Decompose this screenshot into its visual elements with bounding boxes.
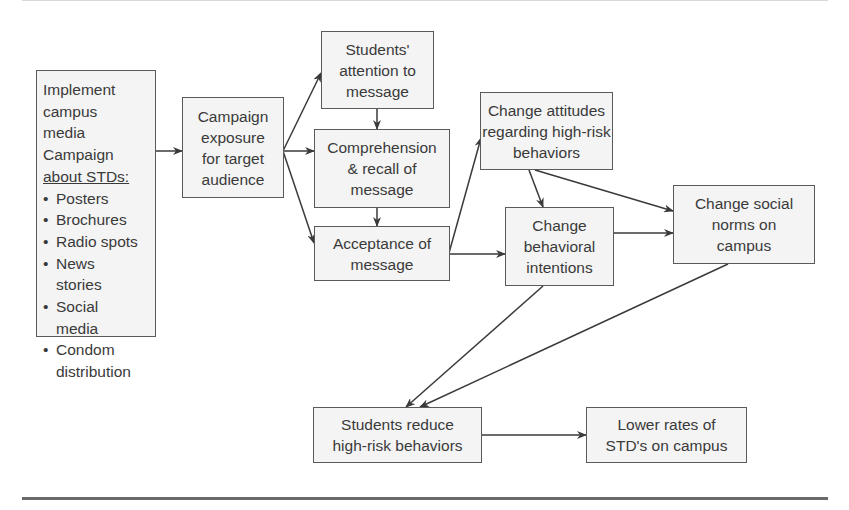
bullet-icon: •: [43, 188, 56, 210]
node-change-social-norms: Change social norms on campus: [673, 185, 815, 264]
bullet-text-line: Social: [56, 296, 98, 318]
node-text-line: & recall of: [348, 158, 417, 179]
node-text-line: high-risk behaviors: [332, 435, 462, 456]
bullet-icon: •: [43, 231, 56, 253]
bullet-icon: •: [43, 209, 56, 231]
node-text-line: Change: [532, 215, 586, 236]
arrow-exposure-to-acceptance: [283, 151, 314, 243]
bullet-text: Brochures: [56, 209, 127, 231]
bullet-text: Social media: [56, 296, 98, 339]
bullet-text: Radio spots: [56, 231, 138, 253]
node-text-line: STD's on campus: [606, 435, 728, 456]
node-text-line: for target: [202, 148, 264, 169]
node-text-line: Acceptance of: [333, 233, 431, 254]
node-campaign-exposure: Campaign exposure for target audience: [182, 97, 284, 198]
bullet-text-line: News: [56, 253, 102, 275]
node-comprehension-recall: Comprehension & recall of message: [314, 129, 450, 208]
node-text-line: Lower rates of: [617, 414, 715, 435]
node-text-line: regarding high-risk: [482, 121, 610, 142]
bullet-text: Condom distribution: [56, 339, 131, 382]
node-lower-std-rates: Lower rates of STD's on campus: [586, 407, 747, 463]
node-text-line: Campaign: [43, 144, 114, 166]
node-text-line: campus: [717, 235, 771, 256]
node-text-line: Implement: [43, 79, 115, 101]
bullet-item: • Radio spots: [43, 231, 138, 253]
node-text-line: campus: [43, 101, 97, 123]
bullet-icon: •: [43, 253, 56, 296]
node-text-line: Comprehension: [327, 137, 436, 158]
node-text-line: media: [43, 122, 85, 144]
bullet-item: • Social media: [43, 296, 98, 339]
bullet-text-line: stories: [56, 274, 102, 296]
bullet-item: • Brochures: [43, 209, 127, 231]
node-text-line: message: [351, 179, 414, 200]
bullet-text-line: distribution: [56, 361, 131, 383]
node-text-line: Students reduce: [341, 414, 454, 435]
bullet-item: • News stories: [43, 253, 102, 296]
node-change-attitudes: Change attitudes regarding high-risk beh…: [480, 92, 613, 170]
node-text-line: Campaign: [198, 106, 269, 127]
node-implement-campaign: Implement campus media Campaign about ST…: [36, 70, 156, 337]
node-text-line: behaviors: [513, 142, 580, 163]
node-text-line: attention to: [339, 60, 416, 81]
node-text-line: Students': [345, 39, 409, 60]
arrow-intentions-to-reduce: [406, 286, 543, 407]
bottom-rule: [22, 497, 828, 500]
bullet-icon: •: [43, 339, 56, 382]
node-change-behavioral-intentions: Change behavioral intentions: [505, 207, 614, 286]
bullet-text-line: media: [56, 318, 98, 340]
node-text-line: intentions: [526, 257, 592, 278]
node-students-attention: Students' attention to message: [321, 31, 434, 109]
node-text-line: audience: [202, 169, 265, 190]
bullet-text: News stories: [56, 253, 102, 296]
node-text-line: Change attitudes: [488, 100, 605, 121]
node-text-line: message: [346, 81, 409, 102]
bullet-icon: •: [43, 296, 56, 339]
bullet-text: Posters: [56, 188, 109, 210]
arrow-acceptance-to-attitudes: [449, 138, 481, 253]
node-text-line: message: [351, 254, 414, 275]
node-students-reduce-behaviors: Students reduce high-risk behaviors: [313, 407, 482, 463]
node-text-line: Change social: [695, 193, 793, 214]
node-acceptance-of-message: Acceptance of message: [314, 226, 450, 281]
bullet-item: • Posters: [43, 188, 109, 210]
arrow-attitudes-to-intentions: [529, 170, 543, 207]
node-text-line: behavioral: [524, 236, 596, 257]
bullet-text-line: Condom: [56, 339, 131, 361]
bullet-item: • Condom distribution: [43, 339, 131, 382]
node-text-line: norms on: [712, 214, 777, 235]
node-heading-underlined: about STDs:: [43, 166, 129, 188]
arrow-attitudes-to-norms: [535, 170, 673, 211]
node-text-line: exposure: [201, 127, 265, 148]
